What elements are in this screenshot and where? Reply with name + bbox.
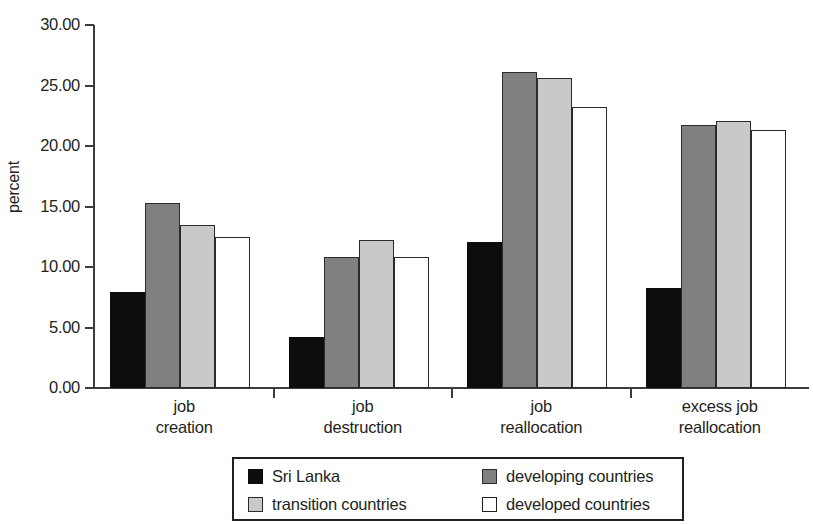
legend-item: Sri Lanka [248, 467, 340, 486]
legend-item: developing countries [482, 467, 653, 486]
bar [716, 121, 751, 388]
bar [289, 337, 324, 388]
bar [502, 72, 537, 388]
category-label-line: job [95, 396, 274, 417]
y-axis-tick-label: 15.00 [8, 197, 80, 216]
legend-swatch-icon [248, 469, 263, 484]
legend-swatch-icon [482, 497, 497, 512]
legend-label: Sri Lanka [272, 467, 340, 486]
x-axis-category-label: jobdestruction [274, 396, 453, 438]
bar [537, 78, 572, 388]
y-axis-tick-label: 10.00 [8, 257, 80, 276]
legend-swatch-icon [482, 469, 497, 484]
x-axis-category-label: excess jobreallocation [631, 396, 810, 438]
bar [145, 203, 180, 388]
category-label-line: reallocation [452, 417, 631, 438]
y-axis-tick-label: 5.00 [8, 318, 80, 337]
category-label-line: creation [95, 417, 274, 438]
bar [359, 240, 394, 388]
category-label-line: excess job [631, 396, 810, 417]
legend: Sri Lankadeveloping countriestransition … [232, 457, 684, 521]
bar-chart: percent 30.0025.0020.0015.0010.005.000.0… [0, 0, 813, 524]
bar [681, 125, 716, 388]
bar [751, 130, 786, 388]
legend-label: developed countries [506, 495, 650, 514]
category-label-line: job [274, 396, 453, 417]
category-label-line: destruction [274, 417, 453, 438]
bar [215, 237, 250, 388]
legend-item: transition countries [248, 495, 407, 514]
y-axis-tick-label: 25.00 [8, 76, 80, 95]
bar [467, 242, 502, 388]
y-axis-tick-label: 20.00 [8, 136, 80, 155]
x-axis-category-label: jobcreation [95, 396, 274, 438]
category-label-line: job [452, 396, 631, 417]
x-axis-category-label: jobreallocation [452, 396, 631, 438]
bars-layer [95, 25, 809, 388]
legend-item: developed countries [482, 495, 650, 514]
bar [646, 288, 681, 388]
bar [324, 257, 359, 388]
y-axis-tick-label: 0.00 [8, 378, 80, 397]
bar [394, 257, 429, 388]
bar [180, 225, 215, 388]
legend-label: developing countries [506, 467, 653, 486]
bar [110, 292, 145, 388]
legend-label: transition countries [272, 495, 407, 514]
bar [572, 107, 607, 388]
category-label-line: reallocation [631, 417, 810, 438]
legend-swatch-icon [248, 497, 263, 512]
y-axis-tick-label: 30.00 [8, 15, 80, 34]
